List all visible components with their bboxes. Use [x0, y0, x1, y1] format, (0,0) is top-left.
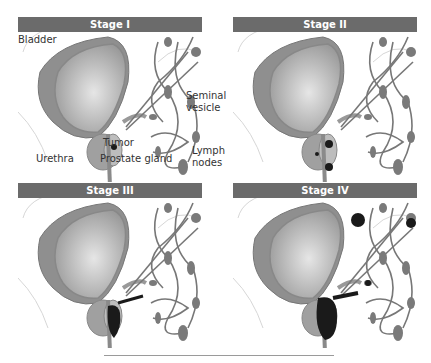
stage-2-illustration	[233, 32, 417, 182]
panel-stage-2: Stage II	[233, 17, 417, 167]
label-urethra: Urethra	[36, 153, 74, 164]
stage-1-title: Stage I	[18, 17, 202, 32]
label-lymph-1: Lymph	[192, 145, 225, 156]
stage-2-title: Stage II	[233, 17, 417, 32]
label-lymph-2: nodes	[192, 157, 222, 168]
label-seminal-2: vesicle	[186, 102, 221, 113]
divider-line	[104, 355, 334, 356]
label-seminal-1: Seminal	[186, 90, 226, 101]
stage-3-title: Stage III	[18, 183, 202, 198]
stage-4-title: Stage IV	[233, 183, 417, 198]
panel-stage-4: Stage IV	[233, 183, 417, 333]
label-tumor: Tumor	[103, 137, 134, 148]
label-prostate: Prostate gland	[100, 153, 172, 164]
stage-4-illustration	[233, 198, 417, 348]
panel-stage-3: Stage III	[18, 183, 202, 333]
label-bladder: Bladder	[18, 34, 57, 45]
stage-3-illustration	[18, 198, 202, 348]
